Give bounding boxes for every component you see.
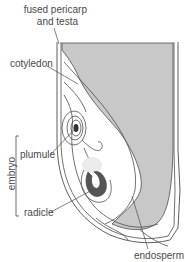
label-and-testa: and testa: [4, 16, 78, 28]
label-endosperm: endosperm: [134, 250, 184, 262]
label-radicle: radicle: [24, 207, 53, 219]
label-fused-pericarp: fused pericarp: [4, 4, 87, 16]
leader-pericarp: [54, 28, 59, 44]
label-cotyledon: cotyledon: [10, 58, 53, 70]
plumule-tip: [74, 124, 79, 132]
coleorhiza-highlight: [82, 157, 102, 173]
endosperm-region: [62, 43, 173, 230]
radicle-shape: [86, 171, 106, 196]
label-embryo: embryo: [6, 157, 17, 191]
label-plumule: plumule: [20, 149, 55, 161]
